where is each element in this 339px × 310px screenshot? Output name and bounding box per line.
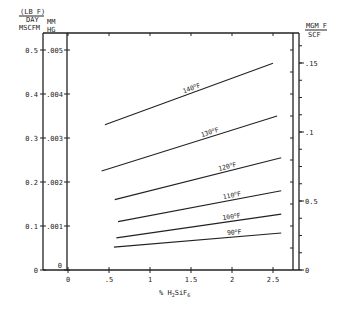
curve-label: 110oF [222, 189, 242, 201]
y-left-outer-label-1: (LB F) [20, 8, 45, 16]
y-left-inner-tick-label: .003 [46, 135, 63, 143]
y-left-inner-label-1: MM [47, 18, 55, 26]
y-right-tick-label: 0.5 [305, 198, 318, 206]
y-right-label-1: MGM F [306, 22, 327, 30]
y-left-outer-tick-label: 0.3 [25, 135, 38, 143]
y-right-label-2: SCF [308, 31, 321, 39]
y-left-outer-label-2: DAY [26, 16, 39, 24]
x-tick-label: 0 [66, 276, 70, 284]
y-left-outer-tick-label: 0 [34, 267, 38, 275]
y-left-outer-label-3: MSCFM [19, 24, 40, 32]
y-left-inner-tick-label: .001 [46, 223, 63, 231]
curve-120f [115, 158, 281, 200]
x-axis-label: % H2SiF6 [159, 289, 190, 298]
curve-label: 90oF [227, 227, 242, 237]
x-tick-label: 2.5 [267, 276, 280, 284]
x-tick-label: 2 [230, 276, 234, 284]
x-tick-label: 1 [148, 276, 152, 284]
y-left-outer-tick-label: 0.4 [25, 91, 38, 99]
y-right-tick-label: .15 [305, 60, 318, 68]
curve-140f [105, 63, 273, 125]
y-left-inner-tick-label: .004 [46, 91, 63, 99]
y-left-inner-tick-label: .005 [46, 47, 63, 55]
y-left-outer-tick-label: 0.2 [25, 179, 38, 187]
y-right-tick-label: .1 [305, 129, 313, 137]
y-left-inner-tick-label: 0 [58, 262, 62, 270]
y-left-outer-tick-label: 0.1 [25, 223, 38, 231]
y-left-outer-tick-label: 0.5 [25, 47, 38, 55]
y-right-tick-label: 0 [305, 267, 309, 275]
curve-110f [118, 191, 281, 222]
x-tick-label: .5 [105, 276, 113, 284]
x-tick-label: 1.5 [185, 276, 198, 284]
chart: (LB F) DAY MSCFM MM HG MGM F SCF 00.10.2… [0, 0, 339, 310]
y-left-inner-tick-label: .002 [46, 179, 63, 187]
curve-130f [102, 116, 277, 171]
curves: 140oF130oF120oF110oF100oF90oF [102, 63, 282, 247]
ticks: 00.10.20.30.40.50.001.002.003.004.0050.5… [25, 33, 317, 284]
